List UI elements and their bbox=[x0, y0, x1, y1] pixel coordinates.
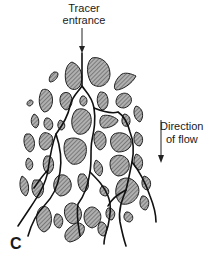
grains bbox=[20, 58, 151, 242]
flow-direction-arrow-icon bbox=[158, 120, 164, 163]
porous-medium-diagram bbox=[0, 0, 213, 263]
tracer-arrow-icon bbox=[79, 28, 85, 53]
